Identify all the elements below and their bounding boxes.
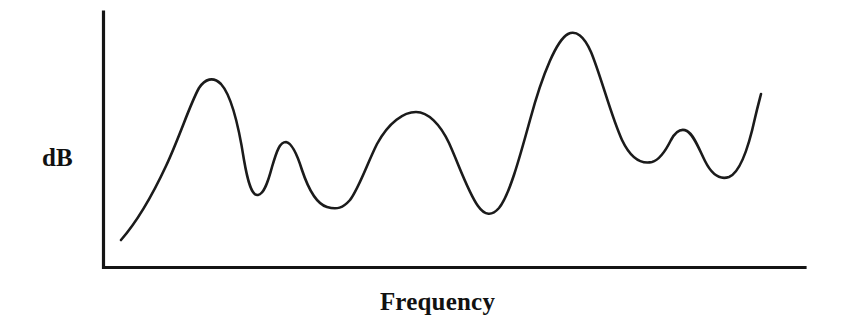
frequency-response-curve	[121, 33, 761, 240]
y-axis-label: dB	[42, 144, 73, 172]
frequency-response-plot	[0, 0, 843, 325]
x-axis-label: Frequency	[0, 288, 843, 316]
figure-root: dB Frequency	[0, 0, 843, 325]
axes-spines	[104, 12, 806, 268]
